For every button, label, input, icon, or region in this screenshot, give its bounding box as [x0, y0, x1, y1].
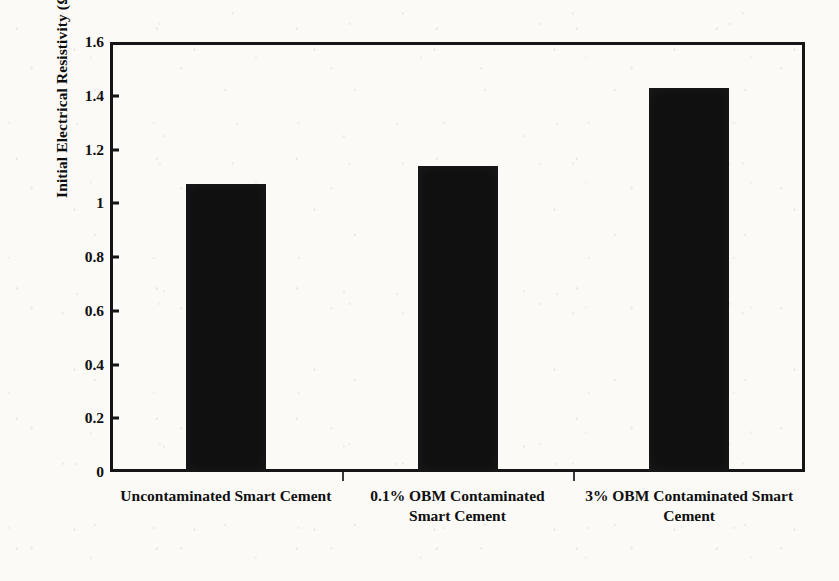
bar	[186, 184, 266, 472]
y-tick-mark	[110, 417, 119, 420]
x-tick-mark	[573, 472, 575, 481]
y-tick-label: 1.2	[58, 141, 104, 159]
y-tick-mark	[110, 94, 119, 97]
y-tick-label: 0.4	[58, 356, 104, 374]
x-axis-category-label: 0.1% OBM Contaminated Smart Cement	[350, 486, 566, 527]
y-tick-mark	[110, 202, 119, 205]
y-tick-mark	[110, 309, 119, 312]
y-tick-label: 1.4	[58, 87, 104, 105]
y-tick-label: 0	[58, 463, 104, 481]
x-axis-category-label: 3% OBM Contaminated Smart Cement	[581, 486, 797, 527]
y-axis-tick-labels: 00.20.40.60.811.21.41.6	[54, 0, 104, 581]
y-tick-mark	[110, 363, 119, 366]
bar-chart: Initial Electrical Resistivity (Ω.m) 00.…	[0, 0, 839, 581]
x-axis-category-label: Uncontaminated Smart Cement	[118, 486, 334, 506]
y-tick-label: 1.6	[58, 33, 104, 51]
bar	[418, 166, 498, 472]
y-tick-mark	[110, 256, 119, 259]
y-tick-label: 0.2	[58, 409, 104, 427]
y-tick-label: 1	[58, 194, 104, 212]
bar	[649, 88, 729, 472]
x-tick-mark	[342, 472, 344, 481]
y-tick-label: 0.8	[58, 248, 104, 266]
y-tick-label: 0.6	[58, 302, 104, 320]
y-tick-mark	[110, 148, 119, 151]
